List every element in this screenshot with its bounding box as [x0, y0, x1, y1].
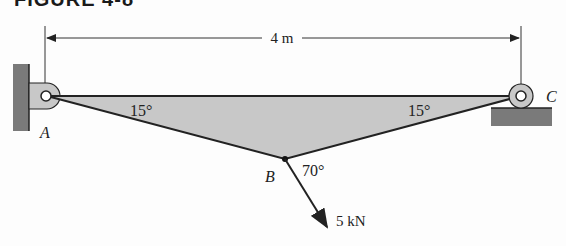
- ground-support-icon: [491, 108, 552, 126]
- wall-support-icon: [13, 64, 29, 131]
- angle-b-label: 70°: [302, 162, 324, 179]
- triangular-plate: [47, 96, 521, 159]
- figure: FIGURE 4-8 4 m: [0, 0, 566, 246]
- angle-a-label: 15°: [130, 102, 152, 119]
- angle-c-label: 15°: [408, 102, 430, 119]
- point-a-label: A: [39, 124, 50, 141]
- point-c-label: C: [546, 88, 557, 105]
- pin-a-icon: [41, 91, 51, 101]
- dimension-label: 4 m: [271, 30, 294, 46]
- force-label: 5 kN: [336, 213, 366, 229]
- truss-diagram: 4 m 15° 15° 70° A B C 5 kN: [0, 0, 566, 246]
- point-b-label: B: [265, 168, 275, 185]
